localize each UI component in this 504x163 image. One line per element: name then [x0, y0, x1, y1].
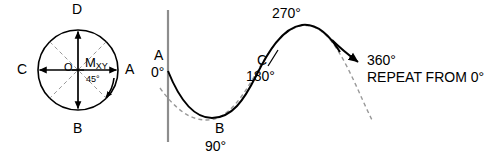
vector-label-subscript: XY [96, 61, 108, 71]
wave-label-a: A [154, 48, 163, 62]
wave-label-repeat-note: REPEAT FROM 0° [367, 70, 484, 84]
vector-label-base: M [85, 55, 96, 70]
circle-label-a: A [125, 62, 134, 76]
wave-label-b: B [215, 121, 224, 135]
wave-label-c: C [257, 53, 267, 67]
wave-label-270deg: 270° [272, 6, 301, 20]
circle-center-label-o: O [64, 62, 73, 73]
vector-label-mxy: MXY [85, 56, 108, 69]
circle-label-b: B [73, 121, 82, 135]
circle-label-c: C [17, 62, 27, 76]
wave-label-0deg: 0° [151, 65, 164, 79]
circle-label-d: D [72, 2, 82, 16]
figure-root: D A C B O MXY 45° A 0° B 90° C 180° 270°… [0, 0, 504, 163]
wave-label-180deg: 180° [246, 69, 275, 83]
wave-end-arrow [332, 40, 358, 62]
wave-label-360deg: 360° [367, 53, 396, 67]
angle-label-45: 45° [86, 75, 100, 84]
wave-label-90deg: 90° [205, 139, 226, 153]
